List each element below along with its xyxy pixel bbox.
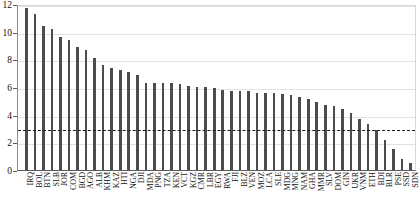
bar — [298, 97, 301, 170]
bar — [187, 86, 190, 170]
bar — [290, 95, 293, 170]
y-axis-tick — [13, 5, 17, 6]
bar — [59, 37, 62, 170]
y-axis-tick — [13, 116, 17, 117]
bar — [392, 149, 395, 170]
bar — [367, 124, 370, 170]
bar — [102, 65, 105, 170]
y-axis-tick-label: 10 — [0, 28, 12, 38]
bar — [153, 83, 156, 170]
x-axis-tick-label: SLE — [275, 172, 283, 186]
y-axis-tick — [13, 33, 17, 34]
x-axis-tick-label: COM — [70, 172, 78, 190]
x-axis-tick-label: SSD — [403, 172, 411, 186]
bar — [196, 87, 199, 170]
bar — [264, 93, 267, 170]
bar — [333, 106, 336, 170]
bar — [384, 140, 387, 170]
x-axis-tick-label: TZA — [164, 172, 172, 187]
x-axis-tick-label: MNG — [292, 172, 300, 190]
bar — [68, 40, 71, 170]
x-axis-tick-label: SDN — [412, 172, 420, 188]
y-axis-tick-label: 2 — [0, 138, 12, 148]
y-axis-tick-label: 12 — [0, 0, 12, 10]
bar — [42, 26, 45, 170]
bar — [51, 29, 54, 170]
bar — [341, 109, 344, 170]
bar — [281, 94, 284, 170]
bar — [110, 68, 113, 170]
bar — [162, 83, 165, 170]
bar — [85, 50, 88, 170]
bar — [119, 70, 122, 170]
bar — [375, 130, 378, 170]
bar — [145, 83, 148, 170]
bar-series — [19, 6, 415, 170]
y-axis-tick — [13, 88, 17, 89]
bar — [350, 113, 353, 170]
bar — [307, 99, 310, 170]
bar — [34, 14, 37, 170]
bar — [136, 75, 139, 170]
bar — [273, 93, 276, 170]
y-axis-tick — [13, 60, 17, 61]
y-axis-tick-label: 0 — [0, 166, 12, 176]
x-axis-tick-label: VCT — [181, 172, 189, 188]
bar — [401, 159, 404, 170]
bar — [256, 93, 259, 170]
bar — [25, 8, 28, 170]
x-axis-tick-label: CMR — [198, 172, 206, 190]
y-axis-tick-label: 8 — [0, 55, 12, 65]
bar — [324, 105, 327, 170]
y-axis-tick — [13, 143, 17, 144]
plot-area — [17, 5, 416, 171]
bar — [76, 47, 79, 170]
x-axis-tick-label: KHM — [104, 172, 112, 190]
x-axis-tick-label: ETH — [369, 172, 377, 187]
bar — [358, 119, 361, 170]
y-axis-tick — [13, 171, 17, 172]
reference-line — [18, 130, 415, 131]
bar — [409, 163, 412, 170]
bar — [315, 102, 318, 170]
bar — [179, 84, 182, 170]
bar — [127, 72, 130, 170]
bar — [93, 58, 96, 170]
x-axis-tick-label: GHA — [309, 172, 317, 189]
y-axis-tick-label: 4 — [0, 111, 12, 121]
x-axis-tick-label: AGO — [87, 172, 95, 189]
x-axis-labels: IRQBOLBTNSLBJORCOMBGDAGOALBKHMKAZHTINGAD… — [18, 172, 417, 211]
bar — [170, 83, 173, 170]
y-axis-tick-label: 6 — [0, 83, 12, 93]
bar — [204, 87, 207, 170]
x-axis-tick-label: BLR — [386, 172, 394, 187]
